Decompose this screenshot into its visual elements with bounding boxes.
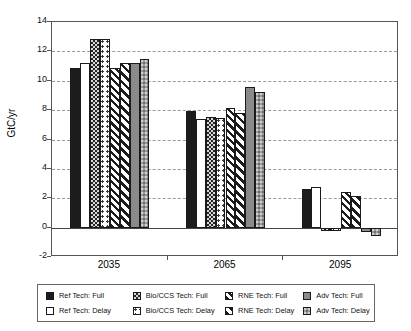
legend-swatch-icon — [133, 307, 141, 315]
bar — [341, 192, 351, 227]
y-tick-label: -2 — [21, 251, 47, 260]
y-tick-mark — [47, 227, 51, 228]
y-tick-mark — [47, 50, 51, 51]
y-tick-mark — [47, 168, 51, 169]
legend-label: Ref Tech: Full — [59, 292, 104, 300]
legend-label: RNE Tech: Delay — [238, 307, 294, 315]
y-tick-label: 6 — [21, 134, 47, 143]
y-tick-label: 8 — [21, 104, 47, 113]
bar — [100, 39, 110, 228]
legend-swatch-icon — [303, 292, 311, 300]
y-tick-mark — [47, 80, 51, 81]
bar — [90, 39, 100, 228]
legend-item[interactable]: Ref Tech: Full — [42, 292, 129, 300]
legend-label: Adv Tech: Delay — [316, 307, 369, 315]
bar — [331, 228, 341, 232]
bar — [206, 117, 216, 227]
bar — [235, 113, 245, 228]
legend-swatch-icon — [133, 292, 141, 300]
bar — [226, 108, 236, 228]
bar — [80, 63, 90, 228]
legend-label: Ref Tech: Delay — [59, 307, 111, 315]
y-axis-tick-labels: -202468101214 — [18, 21, 47, 256]
legend-label: RNE Tech: Full — [238, 292, 287, 300]
bar — [110, 68, 120, 227]
legend-swatch-icon — [303, 307, 311, 315]
legend-label: Bio/CCS Tech: Full — [146, 292, 208, 300]
legend-item[interactable]: RNE Tech: Full — [221, 292, 299, 300]
bar — [130, 63, 140, 228]
y-tick-mark — [47, 109, 51, 110]
bar — [70, 68, 80, 228]
bar — [255, 92, 265, 228]
legend-item[interactable]: Bio/CCS Tech: Full — [129, 292, 221, 300]
x-tick-label-2035: 2035 — [79, 260, 139, 270]
y-tick-label: 4 — [21, 163, 47, 172]
bar — [140, 59, 150, 227]
legend-swatch-icon — [225, 307, 233, 315]
legend-swatch-icon — [46, 307, 54, 315]
y-tick-label: 0 — [21, 222, 47, 231]
bar — [216, 118, 226, 227]
y-tick-mark — [47, 256, 51, 257]
y-tick-label: 14 — [21, 16, 47, 25]
bar — [120, 63, 130, 228]
legend-item[interactable]: Bio/CCS Tech: Delay — [129, 307, 221, 315]
y-tick-mark — [47, 139, 51, 140]
legend-item[interactable]: Adv Tech: Delay — [299, 307, 370, 315]
legend-row: Ref Tech: FullBio/CCS Tech: FullRNE Tech… — [42, 288, 370, 303]
y-tick-label: 2 — [21, 192, 47, 201]
legend-item[interactable]: RNE Tech: Delay — [221, 307, 299, 315]
bar — [361, 228, 371, 232]
legend-label: Adv Tech: Full — [316, 292, 362, 300]
legend-item[interactable]: Ref Tech: Delay — [42, 307, 129, 315]
bar — [302, 189, 312, 227]
plot-area — [51, 21, 398, 256]
y-tick-mark — [47, 21, 51, 22]
zero-line — [52, 228, 397, 229]
x-tick-label-2095: 2095 — [310, 260, 370, 270]
y-axis-title: GtC/yr — [7, 93, 17, 153]
legend-label: Bio/CCS Tech: Delay — [146, 307, 215, 315]
bar — [321, 228, 331, 232]
x-tick-mark — [167, 256, 168, 260]
y-tick-mark — [47, 197, 51, 198]
legend-row: Ref Tech: DelayBio/CCS Tech: DelayRNE Te… — [42, 303, 370, 318]
legend-swatch-icon — [225, 292, 233, 300]
y-tick-label: 12 — [21, 45, 47, 54]
bar — [186, 111, 196, 228]
y-tick-label: 10 — [21, 75, 47, 84]
bar — [311, 187, 321, 228]
bar — [371, 228, 381, 236]
chart-container: GtC/yr -202468101214 Ref Tech: FullBio/C… — [0, 0, 411, 331]
chart-legend: Ref Tech: FullBio/CCS Tech: FullRNE Tech… — [37, 284, 375, 322]
bar — [196, 119, 206, 228]
bar — [351, 196, 361, 228]
bar — [245, 87, 255, 227]
legend-swatch-icon — [46, 292, 54, 300]
x-tick-mark — [282, 256, 283, 260]
x-tick-label-2065: 2065 — [195, 260, 255, 270]
legend-item[interactable]: Adv Tech: Full — [299, 292, 370, 300]
